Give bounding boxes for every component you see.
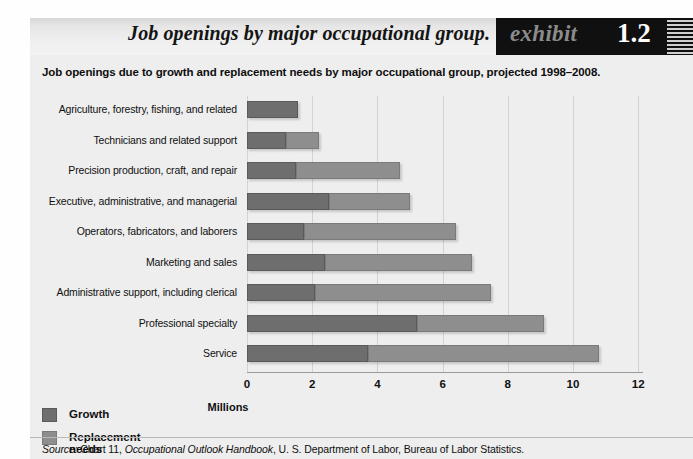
exhibit-word-label: exhibit bbox=[510, 21, 577, 47]
category-label: Precision production, craft, and repair bbox=[68, 164, 237, 176]
gridline-10 bbox=[573, 96, 574, 372]
category-label: Administrative support, including cleric… bbox=[57, 286, 237, 298]
chart-subtitle: Job openings due to growth and replaceme… bbox=[42, 66, 600, 78]
bar-segment-replacement bbox=[304, 223, 456, 240]
bar-segment-growth bbox=[247, 284, 315, 301]
category-label: Marketing and sales bbox=[146, 256, 237, 268]
x-tick-label: 2 bbox=[309, 378, 315, 390]
bar-segment-growth bbox=[247, 162, 296, 179]
bar-segment-growth bbox=[247, 254, 325, 271]
bar-segment-replacement bbox=[315, 284, 491, 301]
x-axis-title: Millions bbox=[208, 401, 249, 413]
x-tick-label: 0 bbox=[244, 378, 250, 390]
source-mid: Chart 11, bbox=[78, 443, 125, 455]
x-tick-label: 12 bbox=[632, 378, 645, 390]
source-title: Occupational Outlook Handbook bbox=[125, 443, 273, 455]
legend-label: Growth bbox=[69, 408, 109, 420]
category-axis: Agriculture, forestry, fishing, and rela… bbox=[30, 96, 243, 372]
category-label: Operators, fabricators, and laborers bbox=[77, 225, 237, 237]
bar-segment-replacement bbox=[368, 345, 599, 362]
bar-segment-growth bbox=[247, 223, 304, 240]
bar-segment-replacement bbox=[296, 162, 400, 179]
exhibit-page: Job openings by major occupational group… bbox=[0, 0, 693, 459]
bar-segment-growth bbox=[247, 193, 329, 210]
source-divider bbox=[30, 437, 693, 438]
x-axis-line bbox=[247, 372, 643, 373]
x-tick-label: 10 bbox=[567, 378, 580, 390]
bar-segment-replacement bbox=[329, 193, 411, 210]
bar-segment-growth bbox=[247, 315, 417, 332]
category-label: Agriculture, forestry, fishing, and rela… bbox=[59, 103, 237, 115]
bars-canvas: 024681012 bbox=[247, 96, 647, 372]
source-tail: , U. S. Department of Labor, Bureau of L… bbox=[273, 443, 524, 455]
bar-segment-growth bbox=[247, 345, 368, 362]
category-label: Technicians and related support bbox=[93, 134, 237, 146]
source-prefix: Source: bbox=[42, 443, 78, 455]
chart-plot-area: Agriculture, forestry, fishing, and rela… bbox=[30, 96, 693, 396]
bar-segment-replacement bbox=[325, 254, 472, 271]
bar-segment-replacement bbox=[286, 132, 319, 149]
gridline-12 bbox=[638, 96, 639, 372]
exhibit-panel: Job openings by major occupational group… bbox=[30, 18, 693, 459]
bar-segment-growth bbox=[247, 101, 298, 118]
exhibit-number-label: 1.2 bbox=[617, 18, 651, 49]
x-tick-label: 8 bbox=[505, 378, 511, 390]
exhibit-badge: exhibit 1.2 bbox=[496, 18, 693, 55]
bar-segment-replacement bbox=[417, 315, 544, 332]
stripes-decoration bbox=[667, 18, 693, 55]
source-note: Source: Chart 11, Occupational Outlook H… bbox=[42, 443, 524, 455]
exhibit-title: Job openings by major occupational group… bbox=[30, 22, 490, 45]
category-label: Executive, administrative, and manageria… bbox=[49, 195, 237, 207]
x-tick-label: 6 bbox=[439, 378, 445, 390]
exhibit-title-band: Job openings by major occupational group… bbox=[30, 18, 693, 55]
bar-segment-growth bbox=[247, 132, 286, 149]
category-label: Service bbox=[203, 347, 237, 359]
x-tick-label: 4 bbox=[374, 378, 380, 390]
category-label: Professional specialty bbox=[139, 317, 237, 329]
legend-swatch bbox=[42, 408, 57, 422]
